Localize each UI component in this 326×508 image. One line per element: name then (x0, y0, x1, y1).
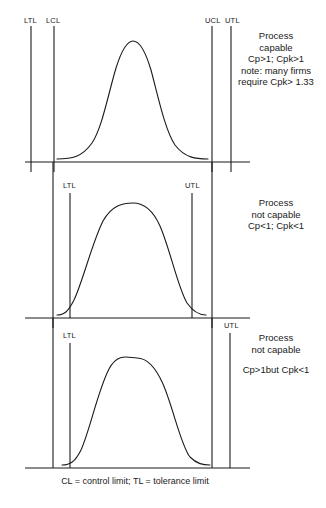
distribution-curve-panel-3 (62, 357, 210, 465)
note-line: Process (228, 332, 324, 344)
distribution-curve-panel-1 (57, 41, 208, 159)
note-line: Process (228, 197, 324, 209)
note-line: Cp>1; Cpk>1 (228, 53, 324, 65)
ltl-label-panel-2: LTL (63, 181, 76, 190)
distribution-curve-panel-2 (57, 203, 206, 315)
note-line: capable (228, 42, 324, 54)
note-line: Cp<1; Cpk<1 (228, 220, 324, 232)
note-line: Process (228, 30, 324, 42)
note-line: not capable (228, 344, 324, 356)
panel-not-capable-cpk-low (25, 318, 250, 468)
panel-capable (25, 26, 250, 172)
note-panel-not-capable-cp-low: Process not capable Cp<1; Cpk<1 (228, 197, 324, 232)
note-panel-capable: Process capable Cp>1; Cpk>1 note: many f… (228, 30, 324, 88)
ucl-label-panel-1: UCL (205, 16, 221, 25)
ltl-label-panel-1: LTL (24, 16, 37, 25)
lcl-label-panel-1: LCL (46, 16, 60, 25)
note-spacer (228, 355, 324, 364)
figure-caption: CL = control limit; TL = tolerance limit (0, 476, 270, 486)
utl-label-panel-3: UTL (224, 321, 239, 330)
panel-not-capable-cp-low (25, 162, 250, 328)
note-line: require Cpk> 1.33 (228, 76, 324, 88)
note-line: not capable (228, 209, 324, 221)
note-line: note: many firms (228, 65, 324, 77)
note-line: Cp>1but Cpk<1 (228, 364, 324, 376)
note-panel-not-capable-cpk-low: Process not capable Cp>1but Cpk<1 (228, 332, 324, 376)
utl-label-panel-1: UTL (225, 16, 240, 25)
utl-label-panel-2: UTL (185, 181, 200, 190)
ltl-label-panel-3: LTL (63, 331, 76, 340)
